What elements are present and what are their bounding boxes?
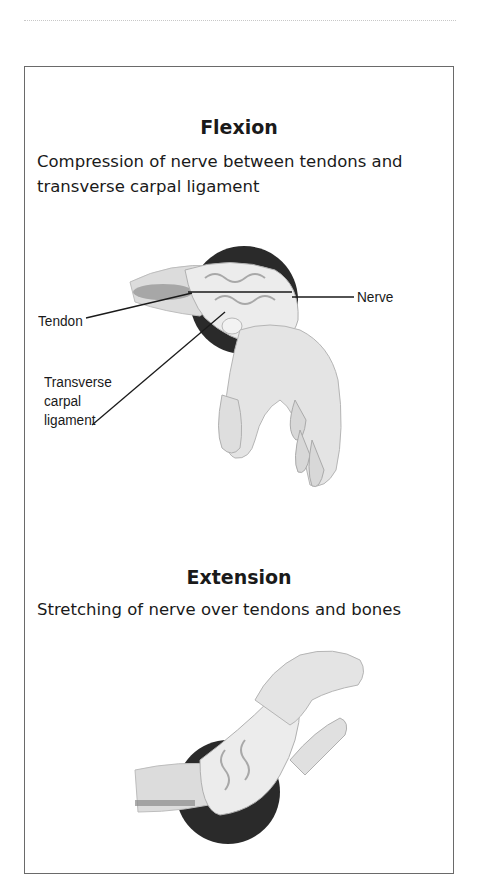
- ligament-label-line3: ligament: [44, 410, 96, 429]
- nerve-label: Nerve: [357, 287, 393, 306]
- extension-title: Extension: [0, 566, 478, 588]
- flexion-illustration: [86, 246, 354, 487]
- extension-description: Stretching of nerve over tendons and bon…: [37, 597, 417, 622]
- illustrations: [0, 0, 478, 892]
- extension-illustration: [135, 651, 364, 844]
- ligament-leader-line: [92, 312, 225, 425]
- tendon-label: Tendon: [38, 311, 83, 330]
- ligament-label-line2: carpal: [44, 391, 81, 410]
- ligament-label-line1: Transverse: [44, 372, 112, 391]
